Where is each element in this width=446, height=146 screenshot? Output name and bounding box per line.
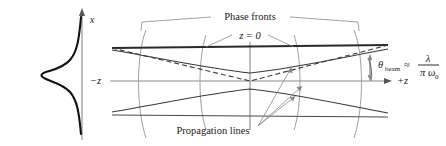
z-positive-label: +z (397, 75, 408, 86)
theta-beam-formula: θ beam ≈ λ π ω 0 (378, 53, 439, 81)
formula-pi: π (420, 67, 426, 78)
beam-propagation-panel: −z +z θ beam ≈ λ (90, 11, 439, 138)
z-axis-arrowhead (384, 78, 392, 84)
phase-fronts-leader-left (141, 17, 211, 31)
propagation-lines-leaders (258, 67, 303, 126)
phase-front-outer-left (139, 30, 147, 138)
phase-front-inner-right (294, 35, 300, 130)
gaussian-beam-figure: x −z +z (0, 0, 446, 146)
propagation-lines-label: Propagation lines (176, 125, 249, 136)
figure-canvas: x −z +z (0, 0, 446, 146)
x-axis-arrowhead (79, 8, 85, 16)
z-negative-label: −z (90, 75, 101, 86)
phase-fronts-leader-right (290, 17, 359, 31)
formula-numerator: λ (425, 53, 431, 64)
gaussian-intensity-curve (42, 17, 82, 134)
transverse-profile-panel: x (42, 8, 96, 140)
waist-plane-leader-left (206, 35, 232, 47)
approx-symbol: ≈ (404, 59, 410, 70)
theta-subscript: beam (385, 65, 401, 73)
propagation-leader-2 (258, 88, 300, 126)
theta-beam-arrow-up (368, 54, 373, 60)
waist-plane-leader-right (268, 35, 294, 47)
propagation-leader-1 (258, 70, 290, 126)
waist-plane-label: z = 0 (238, 30, 261, 41)
x-axis-label: x (89, 15, 95, 25)
phase-fronts-label: Phase fronts (224, 11, 276, 22)
theta-symbol: θ (378, 59, 383, 70)
propagation-leader-3 (258, 98, 293, 126)
formula-omega-subscript: 0 (435, 73, 439, 81)
